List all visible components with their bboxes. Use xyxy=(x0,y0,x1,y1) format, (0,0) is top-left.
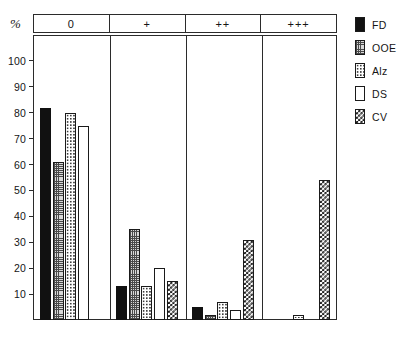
legend-row-cv: CV xyxy=(355,106,413,127)
group-separator-1 xyxy=(110,36,111,319)
legend: FDOOEAlzDSCV xyxy=(355,14,413,129)
group-header-cell-2: ++ xyxy=(186,15,262,32)
group-header-band: 0++++++ xyxy=(33,14,337,33)
legend-label: Alz xyxy=(372,65,388,77)
y-axis-tick-label: 90 xyxy=(14,81,29,93)
legend-swatch-ds xyxy=(355,86,365,101)
group-header-cell-0: 0 xyxy=(34,15,110,32)
y-axis-tick-label: 50 xyxy=(14,184,29,196)
legend-label: FD xyxy=(372,19,387,31)
y-axis-tick-label: 20 xyxy=(14,262,29,274)
legend-row-alz: Alz xyxy=(355,60,413,81)
y-axis-tick-label: 10 xyxy=(14,288,29,300)
y-axis: 102030405060708090100 xyxy=(0,35,33,320)
legend-row-ds: DS xyxy=(355,83,413,104)
legend-label: CV xyxy=(372,111,387,123)
y-axis-unit-label: % xyxy=(10,16,21,32)
group-header-cell-1: + xyxy=(110,15,186,32)
group-separator-2 xyxy=(186,36,187,319)
legend-swatch-ooe xyxy=(355,40,365,55)
group-header-cell-3: +++ xyxy=(261,15,336,32)
y-axis-tick-label: 100 xyxy=(8,55,29,67)
legend-swatch-fd xyxy=(355,17,365,32)
legend-row-ooe: OOE xyxy=(355,37,413,58)
bar-chart-figure: % 0++++++ 102030405060708090100 FDOOEAlz… xyxy=(0,0,416,347)
legend-label: OOE xyxy=(372,42,396,54)
legend-swatch-alz xyxy=(355,63,365,78)
y-axis-tick-label: 70 xyxy=(14,133,29,145)
plot-frame xyxy=(33,35,337,320)
legend-swatch-cv xyxy=(355,109,365,124)
group-separator-3 xyxy=(262,36,263,319)
y-axis-tick-label: 80 xyxy=(14,107,29,119)
legend-row-fd: FD xyxy=(355,14,413,35)
y-axis-tick-label: 30 xyxy=(14,236,29,248)
y-axis-tick-label: 40 xyxy=(14,210,29,222)
legend-label: DS xyxy=(372,88,387,100)
y-axis-tick-label: 60 xyxy=(14,159,29,171)
